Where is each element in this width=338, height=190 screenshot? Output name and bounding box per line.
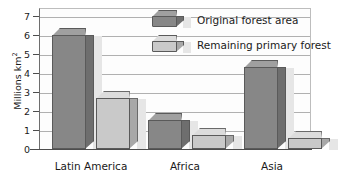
bar-shadow	[329, 139, 338, 150]
x-category-label-latin-america: Latin America	[36, 160, 146, 172]
y-tick-label-1: 1	[14, 126, 30, 136]
swatch-front-face	[152, 16, 177, 27]
bar-front-face	[288, 138, 322, 149]
legend: Original forest area Remaining primary f…	[152, 12, 304, 62]
bar-front-face	[96, 98, 130, 149]
bar-shadow	[137, 99, 146, 150]
y-tick-label-6: 6	[14, 31, 30, 41]
legend-swatch-dark-cuboid-icon	[152, 16, 177, 27]
y-tick-label-0: 0	[14, 145, 30, 155]
bar-shadow	[233, 136, 242, 150]
bar-latin-america-remaining	[96, 98, 130, 149]
legend-item-remaining-primary-forest: Remaining primary forest	[152, 37, 304, 58]
y-tick-label-4: 4	[14, 69, 30, 79]
legend-label-original-forest-area: Original forest area	[197, 14, 298, 26]
y-tick-label-2: 2	[14, 107, 30, 117]
bar-side-face	[85, 35, 94, 149]
bar-front-face	[192, 135, 226, 149]
bar-front-face	[148, 120, 182, 149]
x-axis-baseline	[30, 149, 312, 150]
x-category-label-asia: Asia	[232, 160, 312, 172]
bar-side-face	[277, 67, 286, 149]
bar-asia-original	[244, 67, 278, 149]
bar-side-face	[129, 98, 138, 149]
x-category-label-africa: Africa	[140, 160, 230, 172]
bar-front-face	[244, 67, 278, 149]
swatch-shadow	[183, 17, 191, 28]
y-tick-label-5: 5	[14, 50, 30, 60]
y-axis-tick-labels: 7 6 5 4 3 2 1 0	[12, 0, 30, 190]
bar-africa-remaining	[192, 135, 226, 149]
swatch-shadow	[183, 42, 191, 53]
bar-asia-remaining	[288, 138, 322, 149]
bar-africa-original	[148, 120, 182, 149]
legend-item-original-forest-area: Original forest area	[152, 12, 304, 33]
legend-label-remaining-primary-forest: Remaining primary forest	[197, 39, 331, 51]
bar-front-face	[52, 35, 86, 149]
y-tick-label-7: 7	[14, 12, 30, 22]
legend-swatch-light-cuboid-icon	[152, 41, 177, 52]
y-tick-label-3: 3	[14, 88, 30, 98]
bar-latin-america-original	[52, 35, 86, 149]
swatch-front-face	[152, 41, 177, 52]
